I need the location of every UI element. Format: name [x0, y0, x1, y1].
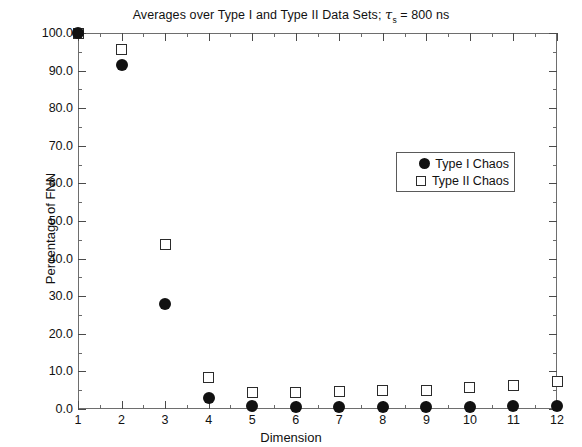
y-tick [78, 202, 82, 203]
x-tick [318, 405, 319, 409]
y-tick [78, 165, 82, 166]
x-tick [535, 33, 536, 37]
data-point [72, 27, 84, 39]
x-tick [513, 33, 514, 41]
y-tick [78, 371, 86, 372]
x-tick [361, 405, 362, 409]
y-tick [553, 390, 557, 391]
data-point [160, 239, 171, 250]
data-point [116, 59, 128, 71]
y-tick [78, 52, 82, 53]
x-tick-label: 3 [148, 413, 182, 427]
data-point [551, 400, 563, 412]
data-point [464, 401, 476, 413]
data-point [508, 380, 519, 391]
y-tick [78, 409, 86, 410]
x-tick [274, 33, 275, 37]
y-tick [549, 371, 557, 372]
y-tick [78, 334, 86, 335]
open-square-icon [414, 174, 428, 188]
y-tick [78, 259, 86, 260]
y-tick [78, 315, 82, 316]
x-tick [535, 405, 536, 409]
x-tick-label: 1 [61, 413, 95, 427]
y-tick [553, 202, 557, 203]
y-tick [553, 127, 557, 128]
x-tick [230, 405, 231, 409]
y-tick [78, 89, 82, 90]
x-tick-label: 4 [192, 413, 226, 427]
y-tick [78, 353, 82, 354]
x-tick [187, 405, 188, 409]
chart-title-tail: = 800 ns [397, 8, 450, 22]
legend-entry-type-i: Type I Chaos [397, 155, 514, 172]
x-tick-label: 8 [366, 413, 400, 427]
x-tick-label: 12 [540, 413, 574, 427]
data-point [159, 298, 171, 310]
x-tick-label: 11 [496, 413, 530, 427]
y-tick-label: 10.0 [21, 364, 73, 378]
y-tick-label: 20.0 [21, 327, 73, 341]
x-tick [405, 33, 406, 37]
x-tick [165, 401, 166, 409]
chart-title: Averages over Type I and Type II Data Se… [0, 7, 582, 25]
y-tick [549, 183, 557, 184]
x-tick-label: 10 [453, 413, 487, 427]
data-point [247, 387, 258, 398]
y-tick [553, 165, 557, 166]
x-tick [274, 405, 275, 409]
x-tick [209, 33, 210, 41]
x-tick [448, 33, 449, 37]
data-point [552, 376, 563, 387]
data-point [421, 385, 432, 396]
x-tick [100, 33, 101, 37]
x-tick [230, 33, 231, 37]
data-point [334, 386, 345, 397]
y-tick [78, 71, 86, 72]
y-tick [78, 127, 82, 128]
y-tick [549, 108, 557, 109]
x-tick-label: 2 [105, 413, 139, 427]
y-tick [553, 277, 557, 278]
y-tick [553, 52, 557, 53]
y-tick-label: 90.0 [21, 64, 73, 78]
x-tick [78, 401, 79, 409]
y-tick [553, 89, 557, 90]
x-tick [426, 33, 427, 41]
figure: Averages over Type I and Type II Data Se… [0, 0, 582, 447]
data-point [377, 401, 389, 413]
data-point [333, 401, 345, 413]
y-tick-label: 80.0 [21, 101, 73, 115]
legend-label-type-ii: Type II Chaos [432, 174, 509, 188]
y-axis-title: Percentage of FNN [43, 139, 58, 319]
y-tick [553, 353, 557, 354]
y-tick [78, 296, 86, 297]
x-tick [100, 405, 101, 409]
data-point [290, 401, 302, 413]
x-tick [165, 33, 166, 41]
x-axis-title: Dimension [0, 430, 582, 445]
data-point [246, 400, 258, 412]
y-tick [549, 146, 557, 147]
legend-label-type-i: Type I Chaos [435, 157, 509, 171]
x-tick [383, 33, 384, 41]
x-tick-label: 6 [279, 413, 313, 427]
x-tick [448, 405, 449, 409]
legend[interactable]: Type I Chaos Type II Chaos [396, 152, 515, 192]
y-tick [549, 71, 557, 72]
y-tick [78, 390, 82, 391]
x-tick [143, 405, 144, 409]
data-point [420, 401, 432, 413]
x-tick [318, 33, 319, 37]
legend-entry-type-ii: Type II Chaos [397, 172, 514, 189]
plot-area: Type I Chaos Type II Chaos [78, 33, 557, 409]
x-tick [361, 33, 362, 37]
x-tick-label: 9 [409, 413, 443, 427]
y-tick-label: 100.0 [21, 26, 73, 40]
x-tick [470, 33, 471, 41]
y-tick [549, 33, 557, 34]
x-tick [296, 33, 297, 41]
data-point [507, 400, 519, 412]
y-tick [78, 108, 86, 109]
filled-circle-icon [417, 157, 431, 171]
